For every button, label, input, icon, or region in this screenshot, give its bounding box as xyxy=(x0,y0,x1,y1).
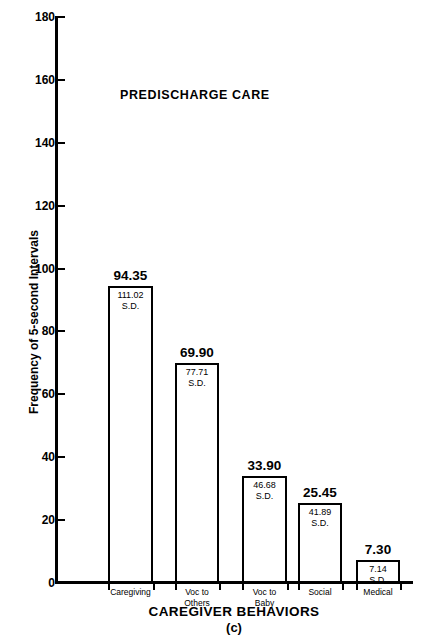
bar-sd-value: 111.02 xyxy=(110,290,151,301)
bar-sd-value: 46.68 xyxy=(244,480,285,491)
y-tick-mark xyxy=(58,142,65,144)
y-tick-mark xyxy=(58,205,65,207)
y-tick-mark xyxy=(58,79,65,81)
y-tick-mark xyxy=(58,456,65,458)
y-axis-title: Frequency of 5-second Intervals xyxy=(27,202,41,442)
bar-sd-value: 77.71 xyxy=(177,367,217,378)
y-tick-mark xyxy=(58,519,65,521)
bar: 77.71S.D. xyxy=(175,363,219,583)
bar-value-label: 25.45 xyxy=(286,486,354,500)
bar-sd-annotation: 77.71S.D. xyxy=(177,367,217,389)
bar-sd-tag: S.D. xyxy=(300,518,340,529)
bar-sd-annotation: 41.89S.D. xyxy=(300,507,340,529)
y-tick-label: 60 xyxy=(15,388,55,400)
y-tick-label: 100 xyxy=(15,263,55,275)
y-tick-label: 80 xyxy=(15,325,55,337)
chart-figure: PREDISCHARGE CARE Frequency of 5-second … xyxy=(0,0,427,639)
bar-sd-tag: S.D. xyxy=(358,575,398,583)
x-category-label: Medical xyxy=(336,587,420,598)
y-tick-label: 20 xyxy=(15,514,55,526)
y-tick-mark xyxy=(58,330,65,332)
y-tick-label: 120 xyxy=(15,200,55,212)
y-tick-mark xyxy=(58,16,65,18)
y-tick-label: 40 xyxy=(15,451,55,463)
bar-sd-value: 7.14 xyxy=(358,564,398,575)
bar-value-label: 69.90 xyxy=(163,346,231,360)
bar-sd-tag: S.D. xyxy=(177,378,217,389)
y-tick-label: 160 xyxy=(15,74,55,86)
y-tick-mark xyxy=(58,393,65,395)
y-tick-mark xyxy=(58,582,65,584)
y-tick-label: 140 xyxy=(15,137,55,149)
chart-title: PREDISCHARGE CARE xyxy=(120,88,270,102)
bar-sd-tag: S.D. xyxy=(244,491,285,502)
x-axis-title: CAREGIVER BEHAVIORS xyxy=(55,604,413,619)
y-axis-line xyxy=(55,16,58,584)
bar: 7.14S.D. xyxy=(356,560,400,583)
y-tick-mark xyxy=(58,268,65,270)
bar-sd-annotation: 111.02S.D. xyxy=(110,290,151,312)
bar: 111.02S.D. xyxy=(108,286,153,583)
bar: 46.68S.D. xyxy=(242,476,287,583)
bar-value-label: 94.35 xyxy=(96,269,165,283)
bar-sd-annotation: 7.14S.D. xyxy=(358,564,398,583)
bar-value-label: 7.30 xyxy=(344,543,412,557)
y-tick-label: 0 xyxy=(15,577,55,589)
bar-value-label: 33.90 xyxy=(230,459,299,473)
y-tick-label: 180 xyxy=(15,11,55,23)
bar-sd-value: 41.89 xyxy=(300,507,340,518)
bar-sd-annotation: 46.68S.D. xyxy=(244,480,285,502)
figure-caption: (c) xyxy=(55,620,413,635)
bar: 41.89S.D. xyxy=(298,503,342,583)
bar-sd-tag: S.D. xyxy=(110,301,151,312)
x-category-line: Medical xyxy=(336,587,420,598)
